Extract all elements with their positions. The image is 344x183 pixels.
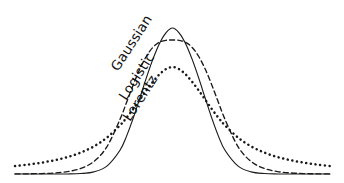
distribution-plot: Gaussian Logistic Lorentz <box>0 0 344 183</box>
peak-shape-comparison-figure: Gaussian Logistic Lorentz <box>0 0 344 183</box>
curve-group <box>15 28 330 174</box>
logistic-curve <box>15 40 330 174</box>
gaussian-curve <box>15 28 330 174</box>
curve-label-group: Gaussian Logistic Lorentz <box>107 12 160 124</box>
lorentz-curve <box>15 67 330 166</box>
